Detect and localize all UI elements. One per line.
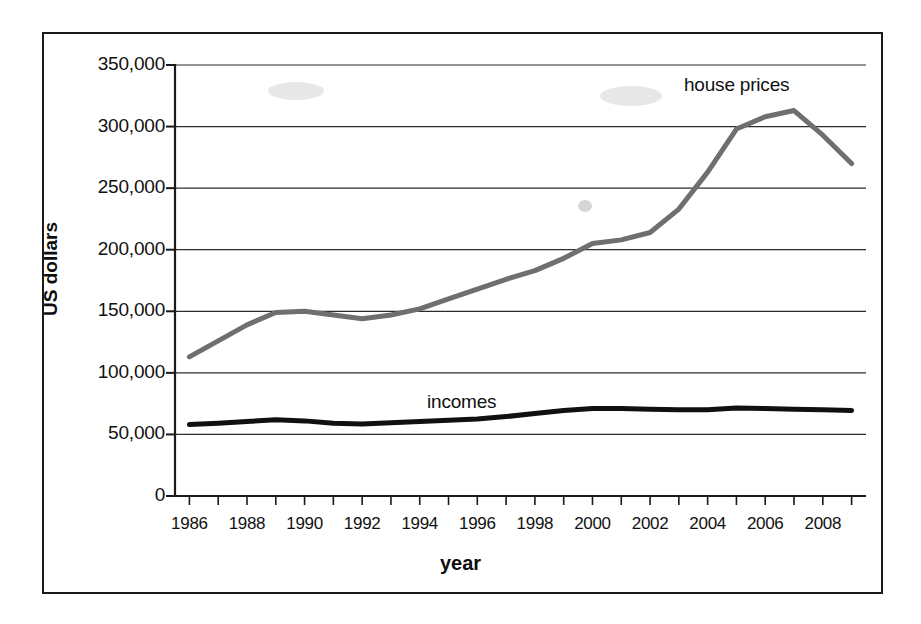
y-axis-tick-label: 50,000 xyxy=(20,422,165,444)
y-axis-tick-label: 350,000 xyxy=(20,53,165,75)
figure-canvas: 350,000300,000250,000200,000150,000100,0… xyxy=(0,0,921,624)
y-axis-tick-label: 100,000 xyxy=(20,361,165,383)
y-axis-tick-label: 250,000 xyxy=(20,176,165,198)
y-axis-title: US dollars xyxy=(40,209,62,329)
x-axis-title: year xyxy=(0,552,921,575)
x-axis-tick-label: 2008 xyxy=(788,514,858,534)
chart-frame xyxy=(42,32,883,594)
series-label-house-prices: house prices xyxy=(684,74,789,96)
y-axis-tick-label: 0 xyxy=(20,484,165,506)
y-axis-tick-label: 300,000 xyxy=(20,115,165,137)
series-label-incomes: incomes xyxy=(427,391,496,413)
